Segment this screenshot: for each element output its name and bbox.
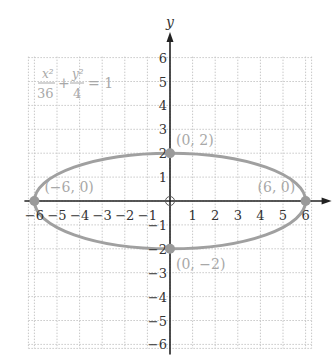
y-tick-label: −2 [148,242,167,257]
y-tick-label: 5 [159,75,167,90]
x-tick-label: 2 [211,208,219,223]
y-tick-label: −5 [148,314,167,329]
x-tick-label: −6 [25,208,44,223]
vertex-point [301,196,311,206]
x-tick-label: −5 [47,208,66,223]
x-axis-arrow-icon [322,198,332,205]
y-axis-arrow-icon [167,32,174,42]
y-tick-label: 4 [159,98,167,113]
vertex-point [165,148,175,158]
x-tick-label: 1 [188,208,196,223]
equation-numerator-1: x² [42,67,54,81]
equation-denominator-1: 36 [37,86,54,101]
point-label: (−6, 0) [44,179,93,195]
y-tick-label: 6 [159,51,167,66]
y-tick-label: 3 [159,122,167,137]
x-tick-label: 4 [256,208,264,223]
y-tick-label: −1 [148,218,167,233]
y-axis-label: y [165,14,175,30]
equation-equals: = 1 [88,75,113,91]
y-tick-label: −6 [148,337,167,352]
y-tick-label: 1 [159,170,167,185]
equation-plus: + [58,75,70,91]
vertex-point [165,244,175,254]
x-tick-label: −3 [93,208,112,223]
y-tick-label: −3 [148,266,167,281]
x-tick-label: −2 [115,208,134,223]
point-label: (0, −2) [176,256,225,272]
point-label: (6, 0) [258,179,296,195]
point-label: (0, 2) [176,132,214,148]
y-tick-label: −4 [148,290,167,305]
x-tick-label: 6 [301,208,309,223]
x-tick-label: 5 [279,208,287,223]
equation-denominator-2: 4 [73,86,81,101]
vertex-point [29,196,39,206]
x-tick-label: −4 [70,208,89,223]
equation-numerator-2: y² [71,67,84,81]
x-tick-label: 3 [234,208,242,223]
ellipse-graph: xy−6−5−4−3−2−1123456654321−1−2−3−4−5−6(0… [0,0,335,356]
coordinate-plane: xy−6−5−4−3−2−1123456654321−1−2−3−4−5−6(0… [0,0,335,356]
